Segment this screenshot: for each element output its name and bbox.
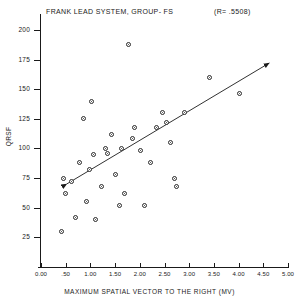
data-point xyxy=(89,99,94,104)
correlation-annotation: (R= .5508) xyxy=(214,8,251,15)
data-point xyxy=(117,203,122,208)
data-point xyxy=(164,120,169,125)
y-tick-label: 50 xyxy=(6,204,30,211)
data-point xyxy=(99,184,104,189)
data-point xyxy=(154,125,159,130)
data-point xyxy=(168,140,173,145)
x-axis-title: MAXIMUM SPATIAL VECTOR TO THE RIGHT (MV) xyxy=(64,288,235,295)
y-tick-label: 125 xyxy=(6,115,30,122)
data-point xyxy=(109,132,114,137)
data-point xyxy=(93,217,98,222)
data-point xyxy=(132,125,137,130)
data-point xyxy=(172,176,177,181)
y-tick-label: 100 xyxy=(6,144,30,151)
y-tick-label: 200 xyxy=(6,26,30,33)
x-tick-label: 5.00 xyxy=(273,271,299,277)
x-tick xyxy=(288,263,289,268)
data-point xyxy=(61,176,66,181)
x-axis-line xyxy=(38,267,288,268)
data-point xyxy=(119,146,124,151)
data-point xyxy=(105,151,110,156)
y-tick-label: 175 xyxy=(6,56,30,63)
y-tick-label: 25 xyxy=(6,233,30,240)
data-point xyxy=(73,215,78,220)
data-point xyxy=(113,172,118,177)
plot-area xyxy=(40,18,288,266)
scatter-plot-figure: FRANK LEAD SYSTEM, GROUP- FS (R= .5508) … xyxy=(0,0,299,305)
y-tick-label: 150 xyxy=(6,85,30,92)
data-point xyxy=(174,184,179,189)
y-tick-label: 75 xyxy=(6,174,30,181)
data-point xyxy=(91,152,96,157)
page-title: FRANK LEAD SYSTEM, GROUP- FS xyxy=(46,8,173,15)
